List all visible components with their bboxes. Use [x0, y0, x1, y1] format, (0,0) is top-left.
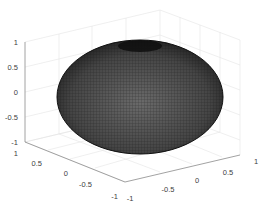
svg-text:-1: -1 [127, 194, 134, 203]
svg-text:0: 0 [64, 169, 68, 178]
svg-text:1: 1 [14, 38, 18, 47]
z-axis-ticks: 1 0.5 0 -0.5 -1 [5, 38, 18, 147]
svg-text:-0.5: -0.5 [162, 185, 175, 194]
ellipsoid-surface [55, 38, 225, 158]
svg-text:0.5: 0.5 [32, 159, 42, 168]
svg-text:1: 1 [254, 157, 258, 166]
svg-text:0: 0 [195, 176, 199, 185]
svg-text:0.5: 0.5 [8, 63, 18, 72]
svg-text:0.5: 0.5 [223, 168, 233, 177]
svg-text:0: 0 [14, 88, 18, 97]
svg-text:-0.5: -0.5 [5, 113, 18, 122]
svg-text:-1: -1 [111, 192, 118, 201]
x-axis-ticks: -1 -0.5 0 0.5 1 [127, 157, 258, 203]
surface-plot: 1 0.5 0 -0.5 -1 1 0.5 0 -0.5 -1 -1 -0.5 … [0, 0, 265, 213]
svg-text:-1: -1 [11, 138, 18, 147]
svg-text:1: 1 [14, 149, 18, 158]
svg-text:-0.5: -0.5 [79, 180, 92, 189]
y-axis-ticks: 1 0.5 0 -0.5 -1 [14, 149, 118, 201]
